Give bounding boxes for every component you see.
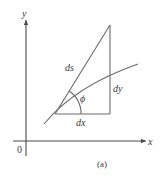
ds-label: ds <box>65 62 74 73</box>
arc-length-diagram: y x 0 ds dy dx ϕ (a) <box>0 0 162 180</box>
origin-label: 0 <box>17 144 22 155</box>
curve <box>44 64 138 124</box>
figure-caption: (a) <box>97 159 107 169</box>
x-axis-label: x <box>147 136 153 147</box>
dx-label: dx <box>76 117 86 128</box>
y-axis-label: y <box>21 8 27 19</box>
phi-label: ϕ <box>80 93 85 104</box>
dy-label: dy <box>113 83 123 94</box>
